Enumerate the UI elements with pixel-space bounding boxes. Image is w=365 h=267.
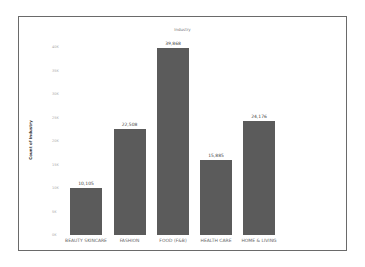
bar[interactable] [114, 129, 146, 235]
bar-value-label: 22,508 [122, 122, 138, 127]
y-tick-label: 10K [52, 186, 66, 190]
y-tick-label: 20K [52, 139, 66, 143]
bar[interactable] [157, 48, 189, 235]
x-category-label: FOOD (F&B) [159, 238, 186, 243]
x-category-label: FASHION [120, 238, 140, 243]
y-tick-label: 30K [52, 92, 66, 96]
y-tick-label: 40K [52, 45, 66, 49]
x-category-label: BEAUTY SKINCARE [65, 238, 107, 243]
x-category-label: HEALTH CARE [201, 238, 232, 243]
bar[interactable] [243, 121, 275, 235]
chart-title: Industry [0, 27, 365, 32]
y-axis-label: Count of Industry [28, 120, 33, 159]
y-tick-label: 35K [52, 69, 66, 73]
bar[interactable] [200, 160, 232, 235]
y-tick-label: 15K [52, 163, 66, 167]
y-tick-label: 0K [52, 233, 66, 237]
bar-value-label: 39,868 [165, 41, 181, 46]
bar-value-label: 10,105 [78, 181, 94, 186]
y-tick-label: 5K [52, 210, 66, 214]
bar[interactable] [70, 188, 102, 235]
x-category-label: HOME & LIVING [241, 238, 276, 243]
y-tick-label: 25K [52, 116, 66, 120]
bar-value-label: 15,885 [208, 153, 224, 158]
bar-value-label: 24,176 [251, 114, 267, 119]
